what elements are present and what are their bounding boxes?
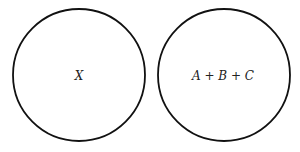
- circle-left: X: [13, 9, 145, 141]
- circle-right: A + B + C: [158, 9, 290, 141]
- circle-left-label: X: [74, 69, 84, 83]
- circle-right-label: A + B + C: [191, 69, 254, 83]
- diagram-canvas: X A + B + C: [0, 0, 300, 152]
